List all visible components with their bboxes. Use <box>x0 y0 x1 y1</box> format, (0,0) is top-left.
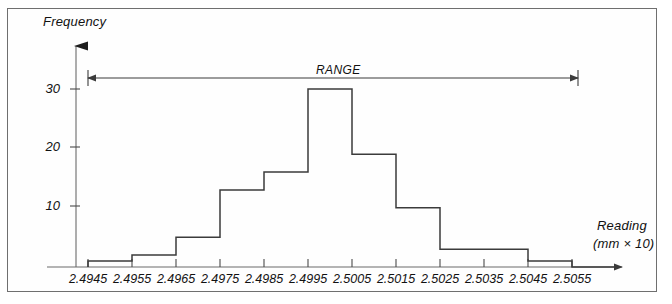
histogram-plot <box>0 0 672 304</box>
y-axis <box>70 46 80 267</box>
x-axis-title: Reading <box>597 218 647 233</box>
histogram-bars <box>88 89 616 267</box>
x-axis <box>47 259 622 267</box>
range-label: RANGE <box>311 63 366 77</box>
histogram-figure: Frequency Reading (mm × 10) RANGE 30 20 … <box>0 0 672 304</box>
x-axis-ticks <box>88 259 572 267</box>
y-tick-label-10: 10 <box>32 198 60 213</box>
y-tick-label-20: 20 <box>32 139 60 154</box>
y-axis-title: Frequency <box>43 14 106 29</box>
x-axis-units-label: (mm × 10) <box>593 236 654 251</box>
y-tick-label-30: 30 <box>32 81 60 96</box>
x-tick-label-11: 2.5055 <box>544 272 600 286</box>
